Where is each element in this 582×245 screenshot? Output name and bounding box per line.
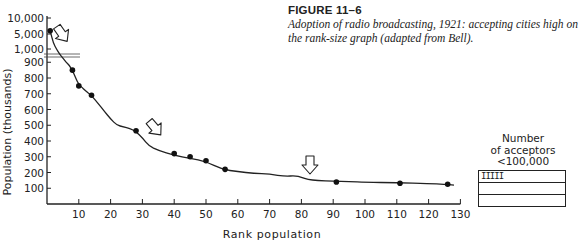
acceptors-legend: Number of acceptors <100,000 IIIII	[478, 133, 568, 207]
accepting-city-dot	[47, 28, 53, 34]
x-tick-label: 40	[168, 208, 181, 220]
accepting-city-dot	[89, 93, 95, 99]
x-tick-label: 30	[136, 208, 149, 220]
accepting-city-dot	[76, 83, 82, 89]
y-tick-label: 1,000	[14, 43, 44, 55]
x-tick-label: 90	[327, 208, 340, 220]
accepting-city-dot	[70, 67, 76, 73]
curve-line	[50, 31, 454, 185]
accepting-city-dot	[334, 179, 340, 185]
accepting-city-markers	[47, 28, 450, 187]
y-tick-label: 5,000	[14, 28, 44, 40]
y-tick-label: 400	[24, 135, 44, 147]
y-tick-label: 100	[24, 182, 44, 194]
y-tick-label: 500	[24, 119, 44, 131]
y-tick-label: 600	[24, 104, 44, 116]
x-tick-label: 80	[295, 208, 308, 220]
legend-title-line: <100,000	[478, 156, 568, 168]
hollow-arrow-icon	[302, 156, 318, 174]
y-tick-label: 200	[24, 167, 44, 179]
legend-tally-row	[479, 195, 565, 206]
hollow-arrow-icon	[143, 116, 167, 140]
accepting-city-dot	[397, 180, 403, 186]
accepting-city-dot	[445, 182, 451, 188]
figure-description: Adoption of radio broadcasting, 1921: ac…	[288, 17, 582, 45]
y-tick-label: 900	[24, 56, 44, 68]
accepting-city-dot	[203, 158, 209, 164]
x-tick-label: 60	[231, 208, 244, 220]
x-tick-label: 70	[263, 208, 276, 220]
y-tick-label: 10,000	[7, 12, 44, 24]
legend-title: Number of acceptors <100,000	[478, 133, 568, 168]
legend-tally-row	[479, 183, 565, 195]
figure-label: FIGURE 11–6	[288, 4, 582, 16]
rank-size-curve	[50, 31, 454, 185]
legend-tally-row: IIIII	[479, 171, 565, 183]
legend-title-line: Number	[478, 133, 568, 145]
y-tick-label: 700	[24, 88, 44, 100]
x-tick-label: 10	[72, 208, 85, 220]
x-tick-label: 100	[355, 208, 375, 220]
x-tick-label: 130	[450, 208, 470, 220]
arrow-annotations	[50, 22, 318, 174]
legend-tally-table: IIIII	[478, 170, 566, 207]
accepting-city-dot	[222, 167, 228, 173]
accepting-city-dot	[171, 151, 177, 157]
x-tick-label: 120	[419, 208, 439, 220]
figure-caption: FIGURE 11–6 Adoption of radio broadcasti…	[288, 4, 582, 45]
x-axis-label: Rank population	[223, 228, 322, 241]
y-tick-label: 300	[24, 151, 44, 163]
x-tick-label: 20	[104, 208, 117, 220]
y-tick-label: 800	[24, 72, 44, 84]
accepting-city-dot	[187, 154, 193, 160]
accepting-city-dot	[133, 128, 139, 134]
x-tick-label: 50	[199, 208, 212, 220]
x-tick-label: 110	[387, 208, 407, 220]
y-axis-label: Population (thousands)	[1, 68, 14, 195]
